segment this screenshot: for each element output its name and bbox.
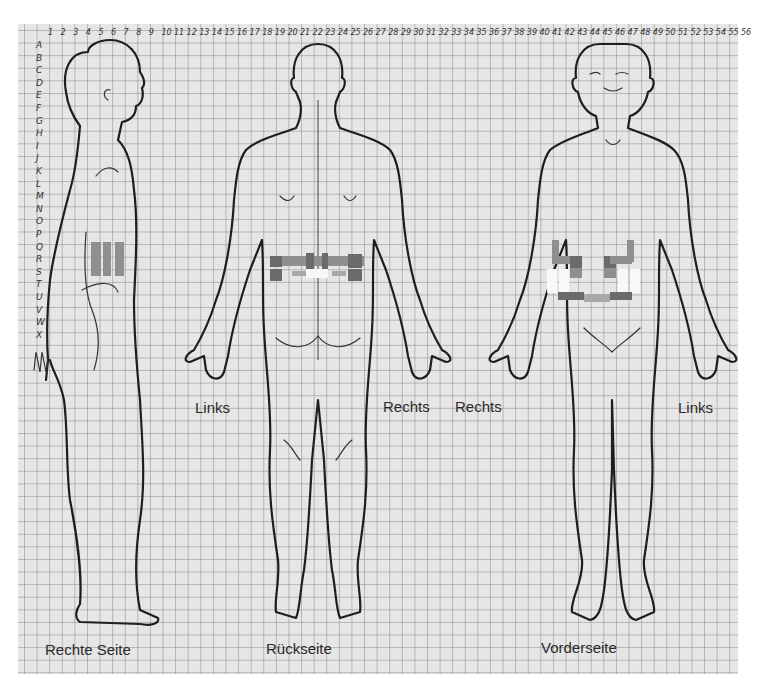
pain-cell: [570, 256, 582, 268]
pain-cell: [604, 268, 616, 278]
pain-region-right-side: [91, 242, 124, 276]
body-figures: [0, 0, 761, 690]
pain-cell: [558, 292, 584, 300]
pain-cell: [270, 256, 282, 267]
pain-cell: [618, 269, 628, 293]
pain-cell: [610, 292, 632, 300]
back-left-label: Links: [195, 399, 230, 416]
pain-cell: [332, 271, 346, 276]
pain-cell: [292, 271, 306, 276]
pain-cell: [584, 294, 610, 302]
pain-cell: [570, 268, 582, 278]
caption-front: Vorderseite: [541, 639, 617, 656]
pain-cell: [559, 269, 569, 293]
pain-cell: [115, 242, 124, 276]
pain-region-front: [547, 240, 640, 302]
figure-front: [490, 44, 737, 620]
front-right-label: Links: [678, 399, 713, 416]
pain-cell: [103, 242, 111, 276]
pain-region-back: [270, 253, 364, 281]
pain-cell: [322, 253, 328, 269]
front-left-label: Rechts: [455, 398, 502, 415]
pain-cell: [630, 269, 640, 293]
pain-cell: [270, 269, 282, 281]
pain-cell: [627, 240, 634, 262]
figure-back: [186, 44, 451, 618]
pain-cell: [91, 242, 101, 276]
pain-cell: [348, 254, 362, 268]
caption-back: Rückseite: [266, 640, 332, 657]
pain-cell: [306, 269, 328, 278]
caption-right-side: Rechte Seite: [45, 641, 131, 658]
pain-cell: [306, 253, 314, 269]
pain-cell: [547, 269, 557, 293]
figure-right-side: [34, 40, 158, 625]
back-right-label: Rechts: [383, 398, 430, 415]
pain-cell: [348, 269, 362, 281]
